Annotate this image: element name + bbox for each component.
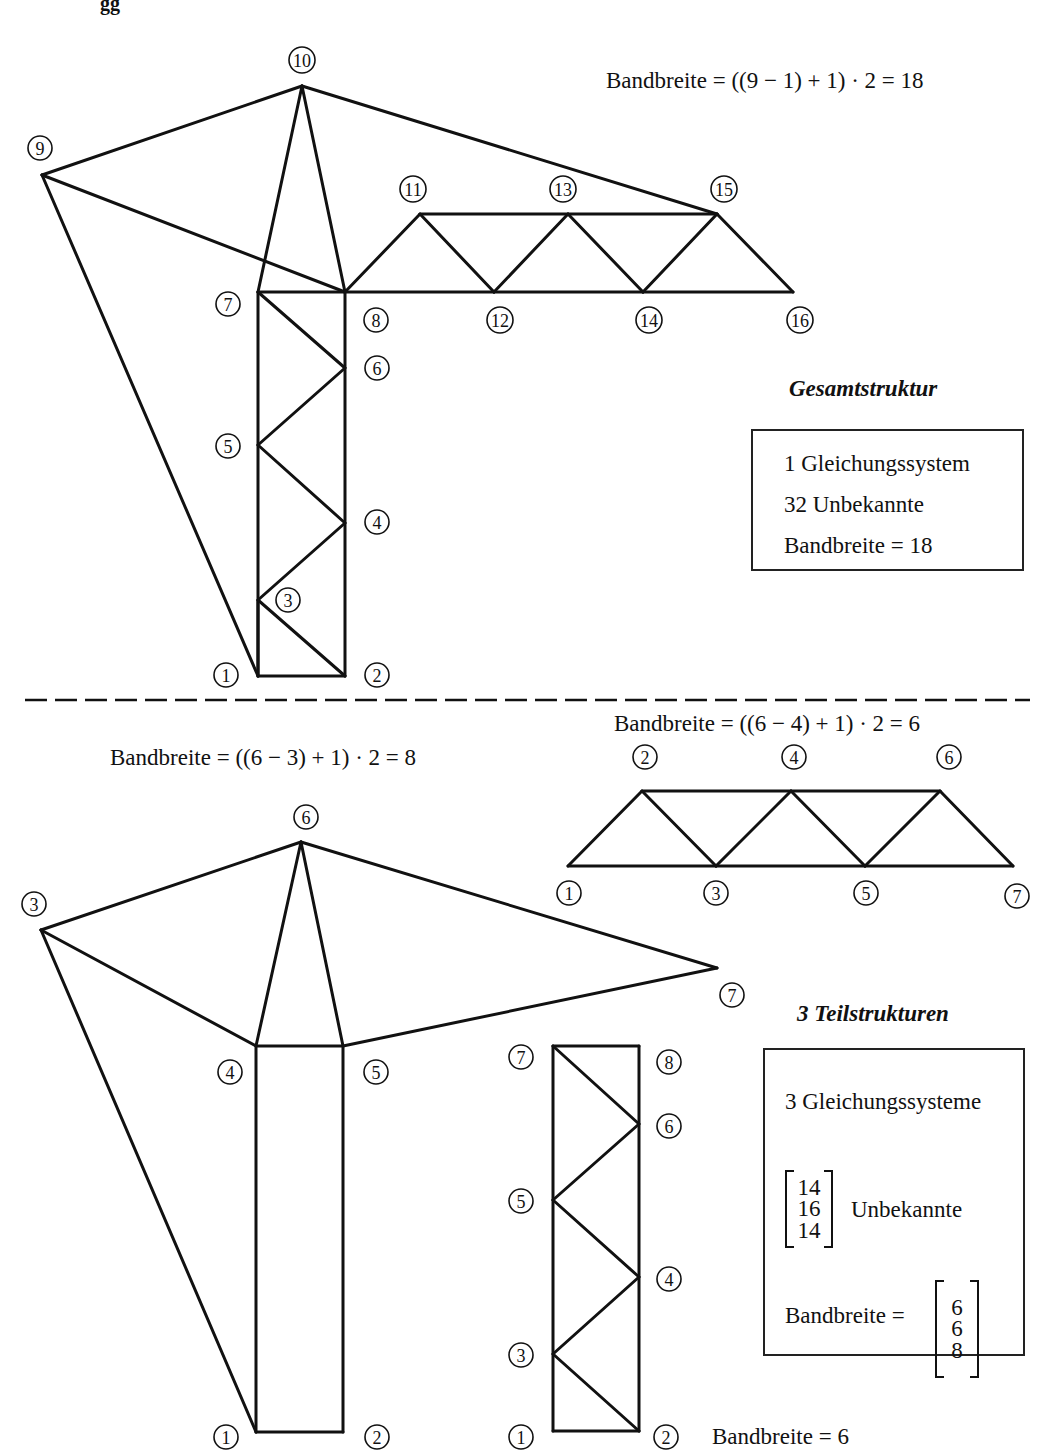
bandwidth-value: 8: [951, 1340, 963, 1361]
total-node-label-12: 12: [491, 311, 509, 331]
bandwidth-value: 6: [951, 1297, 963, 1318]
total-member-3-4: [258, 523, 345, 600]
total-member-9-8: [42, 175, 345, 292]
substructure-tower: 12345678: [509, 1045, 681, 1449]
total-member-11-12: [420, 214, 494, 292]
tower-node-label-3: 3: [517, 1346, 526, 1366]
total-node-label-6: 6: [373, 359, 382, 379]
jib-bandwidth-formula: Bandbreite = ((6 − 4) + 1) · 2 = 6: [614, 712, 920, 735]
total-structure-heading: Gesamtstruktur: [789, 376, 937, 402]
jib-node-label-2: 2: [641, 748, 650, 768]
total-node-label-16: 16: [791, 311, 809, 331]
total-structure-truss: 12345678910111213141516: [28, 47, 813, 687]
jib-node-label-1: 1: [565, 884, 574, 904]
tower-bandwidth-formula: Bandbreite = 6: [712, 1425, 849, 1448]
total-node-label-5: 5: [224, 437, 233, 457]
jib-node-label-5: 5: [862, 884, 871, 904]
total-member-9-1: [42, 175, 258, 676]
total-node-label-11: 11: [404, 180, 421, 200]
tower-node-label-2: 2: [662, 1428, 671, 1448]
head-member-3-6: [41, 842, 301, 930]
unknowns-label: Unbekannte: [851, 1198, 962, 1221]
total-member-13-14: [568, 214, 643, 292]
total-member-14-15: [643, 214, 717, 292]
unknowns-count: 32 Unbekannte: [784, 493, 924, 516]
bandwidth-value: Bandbreite = 18: [784, 534, 932, 557]
total-member-8-11: [345, 214, 420, 292]
jib-member-2-3: [642, 791, 716, 866]
total-member-6-7: [258, 292, 345, 368]
head-member-6-7: [301, 842, 717, 968]
total-node-label-8: 8: [372, 311, 381, 331]
total-node-label-4: 4: [373, 513, 382, 533]
tower-member-7-6: [553, 1046, 639, 1124]
unknowns-value: 14: [798, 1220, 821, 1241]
head-bandwidth-formula: Bandbreite = ((6 − 3) + 1) · 2 = 8: [110, 746, 416, 769]
head-member-6-4: [256, 842, 301, 1046]
total-node-label-3: 3: [284, 591, 293, 611]
unknowns-value: 16: [798, 1198, 821, 1219]
bandwidth-value: 6: [951, 1318, 963, 1339]
total-member-5-6: [258, 368, 345, 445]
jib-node-label-6: 6: [945, 748, 954, 768]
head-node-label-6: 6: [302, 808, 311, 828]
tower-node-label-1: 1: [517, 1428, 526, 1448]
total-member-10-7: [258, 86, 302, 292]
tower-member-6-5: [553, 1124, 639, 1200]
equation-systems-count: 3 Gleichungssysteme: [785, 1090, 981, 1113]
total-node-label-2: 2: [373, 666, 382, 686]
jib-node-label-4: 4: [790, 748, 799, 768]
tower-node-label-8: 8: [665, 1053, 674, 1073]
tower-node-label-7: 7: [517, 1048, 526, 1068]
head-member-5-7: [343, 968, 717, 1046]
head-node-label-2: 2: [373, 1428, 382, 1448]
total-member-3-2: [258, 600, 345, 676]
top-bandwidth-formula: Bandbreite = ((9 − 1) + 1) · 2 = 18: [606, 69, 924, 92]
tower-node-label-4: 4: [665, 1270, 674, 1290]
total-node-label-14: 14: [640, 311, 658, 331]
substructures-summary-box: 3 Gleichungssysteme 14 16 14 Unbekannte …: [763, 1048, 1025, 1356]
head-member-3-1: [41, 930, 256, 1432]
bandwidth-label: Bandbreite =: [785, 1304, 905, 1327]
head-node-label-3: 3: [30, 895, 39, 915]
total-member-10-15: [302, 86, 717, 214]
total-node-label-1: 1: [222, 666, 231, 686]
total-node-label-10: 10: [293, 51, 311, 71]
unknowns-value: 14: [798, 1177, 821, 1198]
tower-node-label-5: 5: [517, 1192, 526, 1212]
head-member-6-5: [301, 842, 343, 1046]
substructure-jib: 1234567: [557, 745, 1029, 908]
head-node-label-4: 4: [226, 1063, 235, 1083]
total-member-4-5: [258, 445, 345, 523]
jib-member-6-7: [940, 791, 1013, 866]
total-node-label-7: 7: [224, 295, 233, 315]
total-structure-summary-box: 1 Gleichungssystem 32 Unbekannte Bandbre…: [751, 429, 1024, 571]
head-member-3-4: [41, 930, 256, 1046]
total-member-15-16: [717, 214, 793, 292]
unknowns-matrix: 14 16 14: [785, 1170, 833, 1248]
total-node-label-9: 9: [36, 139, 45, 159]
head-node-label-5: 5: [372, 1063, 381, 1083]
bandwidth-matrix: 6 6 8: [935, 1280, 979, 1378]
total-member-10-8: [302, 86, 345, 292]
jib-member-4-5: [791, 791, 865, 866]
equation-systems-count: 1 Gleichungssystem: [784, 452, 970, 475]
total-node-label-13: 13: [554, 180, 572, 200]
jib-member-5-6: [865, 791, 940, 866]
tower-member-4-3: [553, 1277, 639, 1354]
tower-member-3-2: [553, 1354, 639, 1431]
jib-node-label-7: 7: [1013, 887, 1022, 907]
jib-member-1-2: [568, 791, 642, 866]
substructures-heading: 3 Teilstrukturen: [797, 1001, 949, 1027]
total-member-12-13: [494, 214, 568, 292]
head-node-label-7: 7: [728, 986, 737, 1006]
tower-node-label-6: 6: [665, 1117, 674, 1137]
jib-node-label-3: 3: [712, 884, 721, 904]
tower-member-5-4: [553, 1200, 639, 1277]
head-node-label-1: 1: [222, 1428, 231, 1448]
total-node-label-15: 15: [715, 180, 733, 200]
jib-member-3-4: [716, 791, 791, 866]
total-member-9-10: [42, 86, 302, 175]
